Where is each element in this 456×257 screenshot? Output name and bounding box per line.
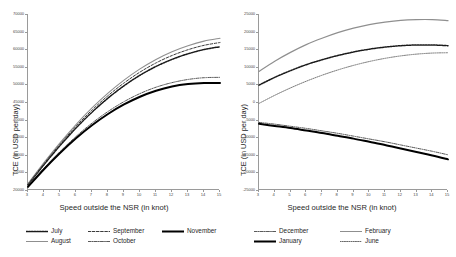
x-tick-mark xyxy=(337,190,338,192)
series-line-august xyxy=(28,38,220,183)
legend-label: June xyxy=(365,238,379,244)
x-tick-label: 4 xyxy=(273,193,275,197)
y-tick-mark xyxy=(25,14,27,15)
y-tick-mark xyxy=(25,120,27,121)
series-line-october xyxy=(28,77,220,186)
y-tick-label: 20000 xyxy=(244,30,255,34)
chart-page: TCE (in USD per day) 2000025000300003500… xyxy=(0,0,456,257)
x-tick-mark xyxy=(203,190,204,192)
y-tick-label: 25000 xyxy=(13,170,24,174)
series-line-september xyxy=(28,43,220,185)
x-tick-label: 3 xyxy=(26,193,28,197)
legend-swatch-icon xyxy=(26,228,48,235)
x-tick-label: 14 xyxy=(429,193,434,197)
y-tick-label: 65000 xyxy=(13,30,24,34)
x-tick-label: 4 xyxy=(42,193,44,197)
y-tick-mark xyxy=(25,32,27,33)
y-tick-label: 30000 xyxy=(13,153,24,157)
legend-label: August xyxy=(51,238,71,244)
legend-item-august[interactable]: August xyxy=(26,236,88,246)
y-tick-label: -25000 xyxy=(243,188,255,192)
y-tick-label: 5000 xyxy=(246,82,255,86)
x-tick-label: 5 xyxy=(288,193,290,197)
x-tick-label: 8 xyxy=(336,193,338,197)
y-tick-label: 50000 xyxy=(13,82,24,86)
series-line-november xyxy=(28,83,220,187)
x-tick-label: 6 xyxy=(74,193,76,197)
y-tick-label: 55000 xyxy=(13,65,24,69)
x-tick-label: 3 xyxy=(257,193,259,197)
x-tick-label: 15 xyxy=(217,193,222,197)
y-tick-mark xyxy=(25,137,27,138)
y-tick-mark xyxy=(25,172,27,173)
plot-area-left: 2000025000300003500040000450005000055000… xyxy=(27,14,219,190)
y-tick-mark xyxy=(256,137,258,138)
legend-item-november[interactable]: November xyxy=(162,226,224,236)
x-tick-mark xyxy=(400,190,401,192)
y-tick-mark xyxy=(25,67,27,68)
y-tick-label: 60000 xyxy=(13,47,24,51)
legend-swatch-icon xyxy=(88,238,110,245)
y-tick-mark xyxy=(25,49,27,50)
x-tick-label: 5 xyxy=(58,193,60,197)
x-tick-mark xyxy=(384,190,385,192)
chart-panel-left: TCE (in USD per day) 2000025000300003500… xyxy=(0,0,228,257)
legend-label: October xyxy=(113,238,136,244)
legend-label: February xyxy=(365,228,391,234)
legend-label: November xyxy=(187,228,216,234)
x-tick-mark xyxy=(258,190,259,192)
x-axis-title-right: Speed outside the NSR (in knot) xyxy=(228,203,456,212)
y-tick-label: -20000 xyxy=(243,170,255,174)
legend-item-september[interactable]: September xyxy=(88,226,162,236)
x-tick-label: 12 xyxy=(169,193,174,197)
x-tick-mark xyxy=(107,190,108,192)
x-tick-label: 10 xyxy=(137,193,142,197)
x-tick-mark xyxy=(368,190,369,192)
y-tick-label: 25000 xyxy=(244,12,255,16)
legend-label: December xyxy=(279,228,308,234)
y-tick-mark xyxy=(256,102,258,103)
legend-swatch-icon xyxy=(254,238,276,245)
series-line-july xyxy=(28,47,220,185)
legend-item-february[interactable]: February xyxy=(340,226,426,236)
legend-swatch-icon xyxy=(26,238,48,245)
legend-label: September xyxy=(113,228,144,234)
legend-item-december[interactable]: December xyxy=(254,226,340,236)
y-tick-label: 10000 xyxy=(244,65,255,69)
legend-label: July xyxy=(51,228,62,234)
legend-swatch-icon xyxy=(88,228,110,235)
x-tick-mark xyxy=(305,190,306,192)
x-tick-mark xyxy=(91,190,92,192)
y-tick-label: 35000 xyxy=(13,135,24,139)
legend-right: DecemberJanuaryFebruaryJune xyxy=(254,226,426,246)
x-tick-mark xyxy=(416,190,417,192)
legend-item-october[interactable]: October xyxy=(88,236,162,246)
x-tick-label: 15 xyxy=(445,193,450,197)
legend-item-july[interactable]: July xyxy=(26,226,88,236)
y-tick-mark xyxy=(256,84,258,85)
chart-panel-right: TCE (in USD per day) -25000-20000-15000-… xyxy=(228,0,456,257)
y-tick-label: -15000 xyxy=(243,153,255,157)
legend-label: January xyxy=(279,238,302,244)
x-tick-mark xyxy=(155,190,156,192)
series-line-january xyxy=(259,124,448,160)
y-tick-label: 20000 xyxy=(13,188,24,192)
x-tick-label: 9 xyxy=(351,193,353,197)
x-tick-mark xyxy=(123,190,124,192)
x-tick-label: 9 xyxy=(122,193,124,197)
y-tick-mark xyxy=(256,155,258,156)
y-tick-label: 0 xyxy=(253,100,255,104)
legend-item-january[interactable]: January xyxy=(254,236,340,246)
x-tick-mark xyxy=(187,190,188,192)
y-tick-label: 40000 xyxy=(13,118,24,122)
x-tick-label: 7 xyxy=(320,193,322,197)
x-axis-title-left: Speed outside the NSR (in knot) xyxy=(0,203,228,212)
legend-item-june[interactable]: June xyxy=(340,236,426,246)
legend-swatch-icon xyxy=(340,228,362,235)
x-tick-mark xyxy=(171,190,172,192)
y-tick-label: 45000 xyxy=(13,100,24,104)
y-tick-mark xyxy=(25,84,27,85)
y-tick-mark xyxy=(25,155,27,156)
x-tick-label: 11 xyxy=(153,193,157,197)
plot-area-right: -25000-20000-15000-10000-500005000100001… xyxy=(258,14,447,190)
